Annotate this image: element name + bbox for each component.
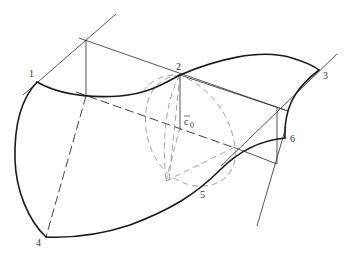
construction-line-6-down — [257, 127, 286, 226]
boundary-curve-4-1 — [15, 82, 46, 237]
auxiliary-circle — [145, 75, 235, 186]
construction-line-2-right — [180, 75, 288, 111]
point-label-1: 1 — [29, 68, 34, 79]
vector-label-subscript: 0 — [190, 121, 194, 130]
point-label-2: 2 — [176, 61, 181, 72]
dashed-line-to-4 — [46, 96, 86, 237]
vector-label-c0: c 0 — [184, 116, 194, 130]
dashed-diagonal — [76, 92, 235, 148]
vector-label-base: c — [184, 116, 189, 127]
boundary-curve-3-6 — [285, 70, 319, 138]
auxiliary-radius-2 — [169, 75, 180, 180]
construction-line-lower-right — [233, 147, 277, 164]
point-label-3: 3 — [323, 70, 328, 81]
point-label-4: 4 — [36, 237, 41, 248]
surface-construction-diagram: 1 2 3 4 5 6 c 0 — [0, 0, 350, 257]
point-label-5: 5 — [200, 189, 205, 200]
point-label-6: 6 — [290, 133, 295, 144]
boundary-curve-2-3 — [180, 54, 319, 75]
auxiliary-radius-1 — [166, 127, 180, 181]
